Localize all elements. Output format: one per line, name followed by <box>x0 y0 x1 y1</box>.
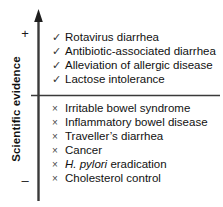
list-item: × Inflammatory bowel disease <box>52 115 208 129</box>
axis-arrowhead <box>34 9 43 22</box>
list-item: ✓ Rotavirus diarrhea <box>52 30 216 44</box>
check-mark-icon: ✓ <box>52 44 65 58</box>
axis-negative-sign: – <box>18 174 32 187</box>
evidence-figure: + – Scientific evidence ✓ Rotavirus diar… <box>0 0 223 207</box>
list-item-label: Antibiotic-associated diarrhea <box>65 44 216 58</box>
list-item-label: Inflammatory bowel disease <box>65 115 208 129</box>
cross-mark-icon: × <box>52 102 65 116</box>
cross-mark-icon: × <box>52 144 65 158</box>
check-mark-icon: ✓ <box>52 30 65 44</box>
list-item: × Cancer <box>52 143 208 157</box>
list-item: × Irritable bowel syndrome <box>52 101 208 115</box>
list-item-label: H. pylori eradication <box>65 157 167 171</box>
check-mark-icon: ✓ <box>52 58 65 72</box>
list-item-label: Cholesterol control <box>65 171 161 185</box>
axis-positive-sign: + <box>18 27 32 40</box>
list-item-label: Lactose intolerance <box>65 72 165 86</box>
list-item-label: Alleviation of allergic disease <box>65 58 213 72</box>
cross-mark-icon: × <box>52 130 65 144</box>
list-item-label: Rotavirus diarrhea <box>65 30 159 44</box>
cross-mark-icon: × <box>52 116 65 130</box>
list-item-label: Irritable bowel syndrome <box>65 101 190 115</box>
list-item: ✓ Lactose intolerance <box>52 72 216 86</box>
list-item: ✓ Antibiotic-associated diarrhea <box>52 44 216 58</box>
list-item: × H. pylori eradication <box>52 157 208 171</box>
species-name-suffix: eradication <box>107 158 166 170</box>
list-item-label: Cancer <box>65 143 102 157</box>
species-name: H. pylori <box>65 158 107 170</box>
unsupported-evidence-list: × Irritable bowel syndrome × Inflammator… <box>52 101 208 185</box>
cross-mark-icon: × <box>52 158 65 172</box>
check-mark-icon: ✓ <box>52 72 65 86</box>
supported-evidence-list: ✓ Rotavirus diarrhea ✓ Antibiotic-associ… <box>52 30 216 86</box>
list-item-label: Traveller’s diarrhea <box>65 129 163 143</box>
y-axis-title: Scientific evidence <box>10 44 22 174</box>
cross-mark-icon: × <box>52 172 65 186</box>
list-item: ✓ Alleviation of allergic disease <box>52 58 216 72</box>
list-item: × Traveller’s diarrhea <box>52 129 208 143</box>
list-item: × Cholesterol control <box>52 171 208 185</box>
